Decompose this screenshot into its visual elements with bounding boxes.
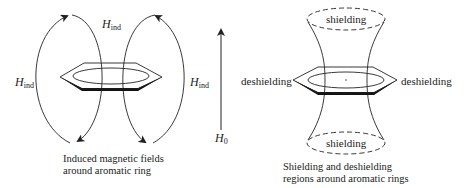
left-loop-inner [72,15,102,141]
left-caption-line-1: Induced magnetic fields [63,153,164,165]
aromatic-ring-diagram: Hind Hind Hind H0 Induced magnetic field… [0,0,465,188]
h-symbol: H [190,75,199,89]
right-caption: Shielding and deshielding regions around… [283,161,409,185]
right-caption-line-1: Shielding and deshielding [283,161,409,173]
h-ind-label-right: Hind [190,76,209,92]
h0-label: H0 [215,132,228,148]
h-subscript: ind [111,23,121,32]
h-subscript: 0 [224,137,228,146]
right-loop-inner [123,15,155,142]
h-subscript: ind [24,81,34,90]
right-caption-line-2: regions around aromatic rings [283,173,409,185]
h-symbol: H [215,131,224,145]
induced-field-loops [36,15,184,143]
deshielding-left-label: deshielding [241,75,292,87]
shielding-top-label: shielding [326,13,366,25]
h-ind-label-top: Hind [102,18,121,34]
h-symbol: H [15,75,24,89]
shielding-bottom-label: shielding [326,137,366,149]
h-subscript: ind [199,81,209,90]
benzene-ring-right [293,67,397,95]
h-ind-label-left: Hind [15,76,34,92]
left-caption-line-2: around aromatic ring [63,165,164,177]
shielding-cone [307,8,385,154]
deshielding-right-label: deshielding [401,75,452,87]
h-symbol: H [102,17,111,31]
benzene-ring-left [60,63,162,91]
left-caption: Induced magnetic fields around aromatic … [63,153,164,177]
